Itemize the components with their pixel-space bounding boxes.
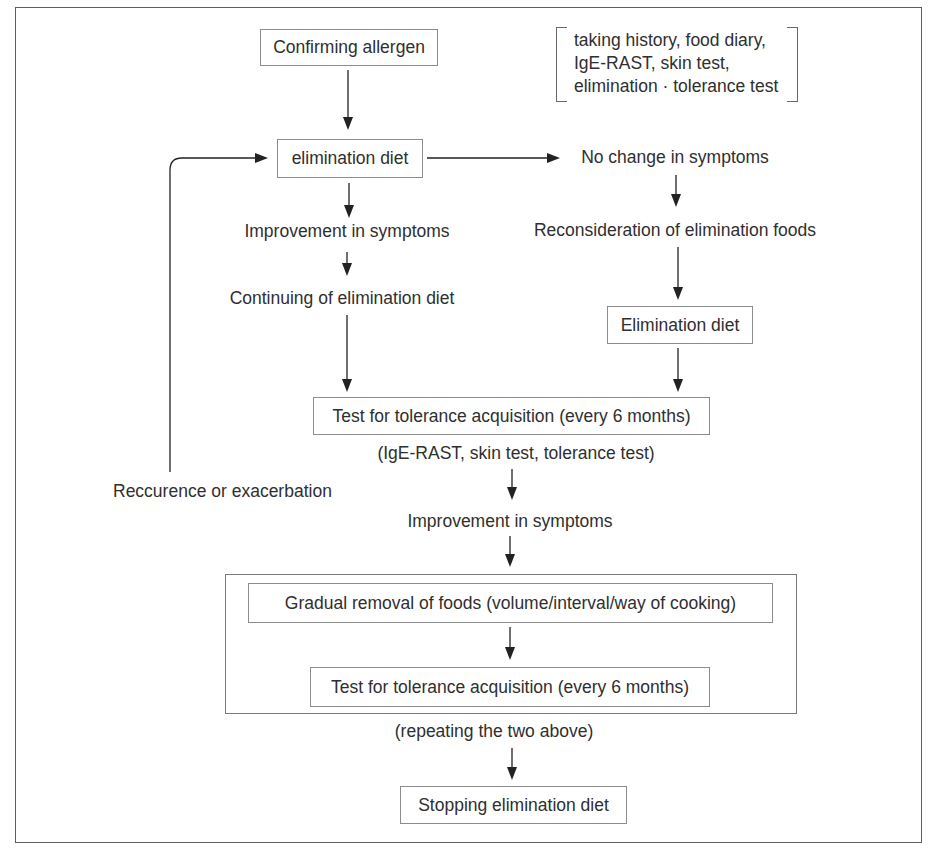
node-gradual-removal-of-foods: Gradual removal of foods (volume/interva… bbox=[248, 583, 773, 623]
note-line-1: taking history, food diary, bbox=[574, 29, 778, 52]
label-reconsideration-of-elimination-foods: Reconsideration of elimination foods bbox=[534, 220, 816, 241]
note-diagnostic-methods: taking history, food diary, IgE-RAST, sk… bbox=[556, 27, 798, 102]
note-line-3: elimination · tolerance test bbox=[574, 75, 778, 98]
flowchart-figure: Confirming allergen taking history, food… bbox=[0, 0, 939, 854]
node-tolerance-test-2: Test for tolerance acquisition (every 6 … bbox=[310, 667, 710, 707]
node-elimination-diet: elimination diet bbox=[277, 139, 423, 178]
label-continuing-of-elimination-diet: Continuing of elimination diet bbox=[230, 288, 455, 309]
left-bracket bbox=[556, 27, 567, 102]
label-recurrence-or-exacerbation: Reccurence or exacerbation bbox=[113, 481, 332, 502]
node-confirming-allergen: Confirming allergen bbox=[260, 29, 438, 66]
label-no-change-in-symptoms: No change in symptoms bbox=[581, 147, 769, 168]
note-line-2: IgE-RAST, skin test, bbox=[574, 52, 778, 75]
node-tolerance-test-1: Test for tolerance acquisition (every 6 … bbox=[313, 397, 710, 435]
node-stopping-elimination-diet: Stopping elimination diet bbox=[400, 786, 627, 824]
right-bracket bbox=[787, 27, 798, 102]
node-elimination-diet-2: Elimination diet bbox=[607, 306, 753, 344]
label-repeating-caption: (repeating the two above) bbox=[395, 721, 593, 742]
label-improvement-in-symptoms-2: Improvement in symptoms bbox=[407, 511, 612, 532]
label-tolerance-test-caption: (IgE-RAST, skin test, tolerance test) bbox=[377, 443, 654, 464]
label-improvement-in-symptoms-1: Improvement in symptoms bbox=[244, 221, 449, 242]
